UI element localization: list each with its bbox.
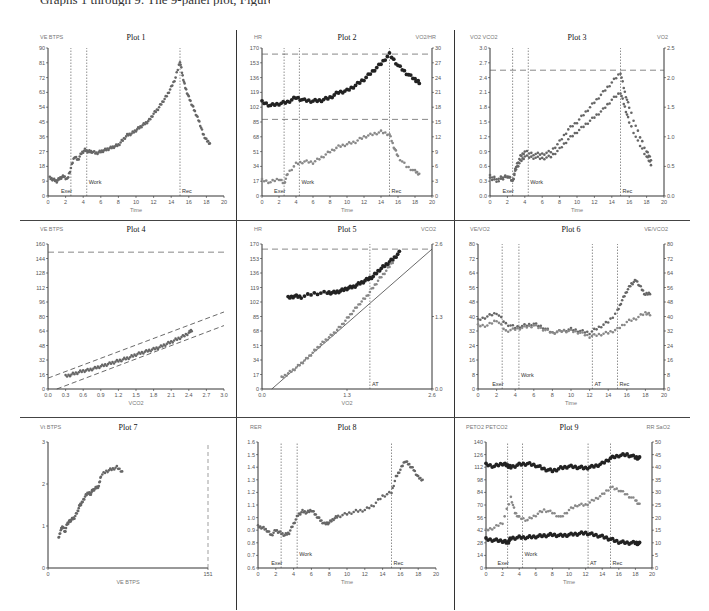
event-marker-label: Exer: [61, 188, 72, 194]
x-tick-label: 12: [583, 571, 589, 577]
x-tick-label: 2.7: [203, 392, 211, 398]
event-marker-label: AT: [590, 560, 597, 566]
y-tick-label: 2.1: [479, 89, 487, 95]
x-axis-label: Time: [341, 579, 353, 585]
y-right-tick-label: 3: [435, 178, 438, 184]
plot1-chart: Plot 1VE BTPS024681012141618200918273645…: [22, 30, 234, 220]
y-tick-label: 1.6: [247, 439, 255, 445]
event-marker-label: Exer: [498, 560, 509, 566]
plot8-panel: Plot 8RER024681012141618200.60.70.80.91.…: [240, 420, 452, 610]
y-right-tick-label: 56: [667, 285, 673, 291]
event-marker-label: Rec: [392, 188, 402, 194]
chart-title: Plot 9: [560, 423, 579, 432]
y-tick-label: 85: [253, 119, 259, 125]
grid-divider-v1: [236, 30, 237, 610]
x-tick-label: 18: [415, 571, 421, 577]
y-tick-label: 17: [253, 178, 259, 184]
y-tick-label: 63: [39, 89, 45, 95]
y-tick-label: 1.5: [247, 452, 255, 458]
event-marker-label: Work: [525, 551, 538, 557]
y-axis-label: VE/VO2: [470, 226, 490, 232]
x-tick-label: 0: [488, 199, 491, 205]
y-right-tick-label: 25: [655, 502, 661, 508]
y-right-tick-label: 12: [435, 134, 441, 140]
event-marker-label: AT: [594, 381, 601, 387]
x-tick-label: 10: [344, 199, 350, 205]
y-tick-label: 34: [253, 163, 259, 169]
y-tick-label: 32: [469, 328, 475, 334]
y-tick-label: 170: [250, 241, 259, 247]
y-tick-label: 140: [474, 439, 483, 445]
y-tick-label: 0: [256, 193, 259, 199]
y-tick-label: 16: [469, 357, 475, 363]
chart-title: Plot 4: [127, 225, 146, 234]
x-tick-label: 4: [294, 199, 297, 205]
y-right-tick-label: 40: [667, 314, 673, 320]
y-axis-label: Vt BTPS: [40, 424, 61, 430]
y-right-tick-label: 2.5: [667, 45, 675, 51]
y-right-tick-label: 64: [667, 270, 673, 276]
y-axis-label: VE BTPS: [40, 34, 64, 40]
y-tick-label: 56: [477, 515, 483, 521]
series-vco2: [489, 73, 653, 184]
x-tick-label: 2: [277, 199, 280, 205]
y-tick-label: 136: [250, 270, 259, 276]
y-tick-label: 36: [39, 134, 45, 140]
y-tick-label: 24: [469, 343, 475, 349]
y-axis-label: RER: [250, 424, 262, 430]
y-axis-label: HR: [254, 34, 262, 40]
reference-line: [48, 312, 224, 378]
y-tick-label: 42: [477, 527, 483, 533]
y-right-tick-label: 5: [655, 552, 658, 558]
x-tick-label: 20: [661, 199, 667, 205]
x-tick-label: 20: [433, 571, 439, 577]
plot8-chart: Plot 8RER024681012141618200.60.70.80.91.…: [240, 420, 452, 610]
grid-divider-v2: [454, 30, 455, 610]
y-tick-label: 0.6: [247, 565, 255, 571]
series-petco2: [484, 530, 641, 546]
y-right-tick-label: 0.5: [667, 163, 675, 169]
y-tick-label: 1.5: [479, 119, 487, 125]
x-tick-label: 0: [484, 571, 487, 577]
plot5-chart: Plot 5HRVCO20.01.32.60173451688510211913…: [240, 222, 452, 417]
y-tick-label: 51: [253, 149, 259, 155]
y-tick-label: 17: [253, 372, 259, 378]
plot7-panel: Plot 7Vt BTPS01510123VE BTPS: [22, 420, 234, 610]
y-tick-label: 2.7: [479, 60, 487, 66]
y-right-tick-label: 27: [435, 60, 441, 66]
y-tick-label: 0.3: [479, 178, 487, 184]
x-tick-label: 151: [203, 571, 212, 577]
y-tick-label: 3: [42, 439, 45, 445]
plot2-panel: Plot 2HRVO2/HR02468101214161820017345168…: [240, 30, 452, 220]
y-tick-label: 80: [469, 241, 475, 247]
y-right-tick-label: 10: [655, 540, 661, 546]
y-tick-label: 153: [250, 60, 259, 66]
y-tick-label: 34: [253, 357, 259, 363]
top-caption-fragment: Graphs 1 through 9: The 9-panel plot, Fi…: [40, 0, 270, 6]
x-tick-label: 18: [642, 392, 648, 398]
x-tick-label: 4: [523, 199, 526, 205]
x-tick-label: 18: [644, 199, 650, 205]
x-tick-label: 6: [534, 571, 537, 577]
y-tick-label: 68: [253, 134, 259, 140]
x-tick-label: 20: [661, 392, 667, 398]
x-tick-label: 0: [46, 199, 49, 205]
x-tick-label: 20: [221, 199, 227, 205]
x-tick-label: 10: [133, 199, 139, 205]
x-tick-label: 0.0: [44, 392, 52, 398]
x-tick-label: 16: [395, 199, 401, 205]
x-axis-label: VE BTPS: [116, 579, 140, 585]
y-tick-label: 85: [253, 314, 259, 320]
y-tick-label: 0.9: [247, 527, 255, 533]
y-right-tick-label: 0: [655, 565, 658, 571]
y-right-tick-label: 40: [655, 464, 661, 470]
event-marker-label: Rec: [613, 560, 623, 566]
x-tick-label: 12: [587, 392, 593, 398]
x-tick-label: 3.0: [220, 392, 228, 398]
y-tick-label: 0: [480, 565, 483, 571]
series-vo2: [489, 92, 653, 182]
event-marker-label: Rec: [394, 560, 404, 566]
plot3-chart: Plot 3VO2 VCO2VO2024681012141618200.00.3…: [456, 30, 686, 220]
y-axis-label: HR: [254, 226, 262, 232]
x-tick-label: 2.4: [185, 392, 193, 398]
